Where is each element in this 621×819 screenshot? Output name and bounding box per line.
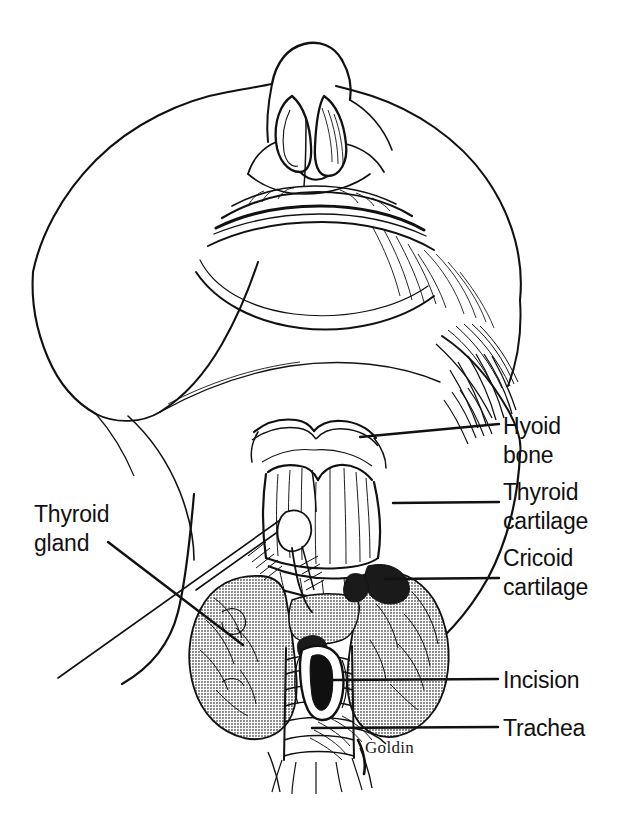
leader-trachea [312,727,498,728]
label-cricoid-cartilage: Cricoid cartilage [503,544,588,602]
label-trachea-line1: Trachea [503,715,585,741]
anatomical-figure: Hyoid bone Thyroid cartilage Cricoid car… [0,0,621,819]
artist-signature: Goldin [365,738,414,758]
label-incision-line1: Incision [503,667,579,693]
label-thyroid-gland-line1: Thyroid [34,501,109,527]
illustration-artwork [0,0,621,819]
label-hyoid-bone: Hyoid bone [503,412,561,470]
leader-thyroid-cartilage [393,502,499,503]
label-cricoid-cartilage-line1: Cricoid [503,545,573,571]
label-thyroid-cartilage-line1: Thyroid [503,479,578,505]
label-hyoid-bone-line1: Hyoid [503,413,561,439]
leader-cricoid-cartilage [385,578,499,579]
label-cricoid-cartilage-line2: cartilage [503,574,588,600]
label-thyroid-cartilage-line2: cartilage [503,508,588,534]
label-thyroid-cartilage: Thyroid cartilage [503,478,588,536]
label-incision: Incision [503,666,579,695]
label-thyroid-gland: Thyroid gland [34,500,109,558]
label-trachea: Trachea [503,714,585,743]
label-hyoid-bone-line2: bone [503,442,553,468]
label-thyroid-gland-line2: gland [34,530,89,556]
leader-incision [332,679,498,680]
